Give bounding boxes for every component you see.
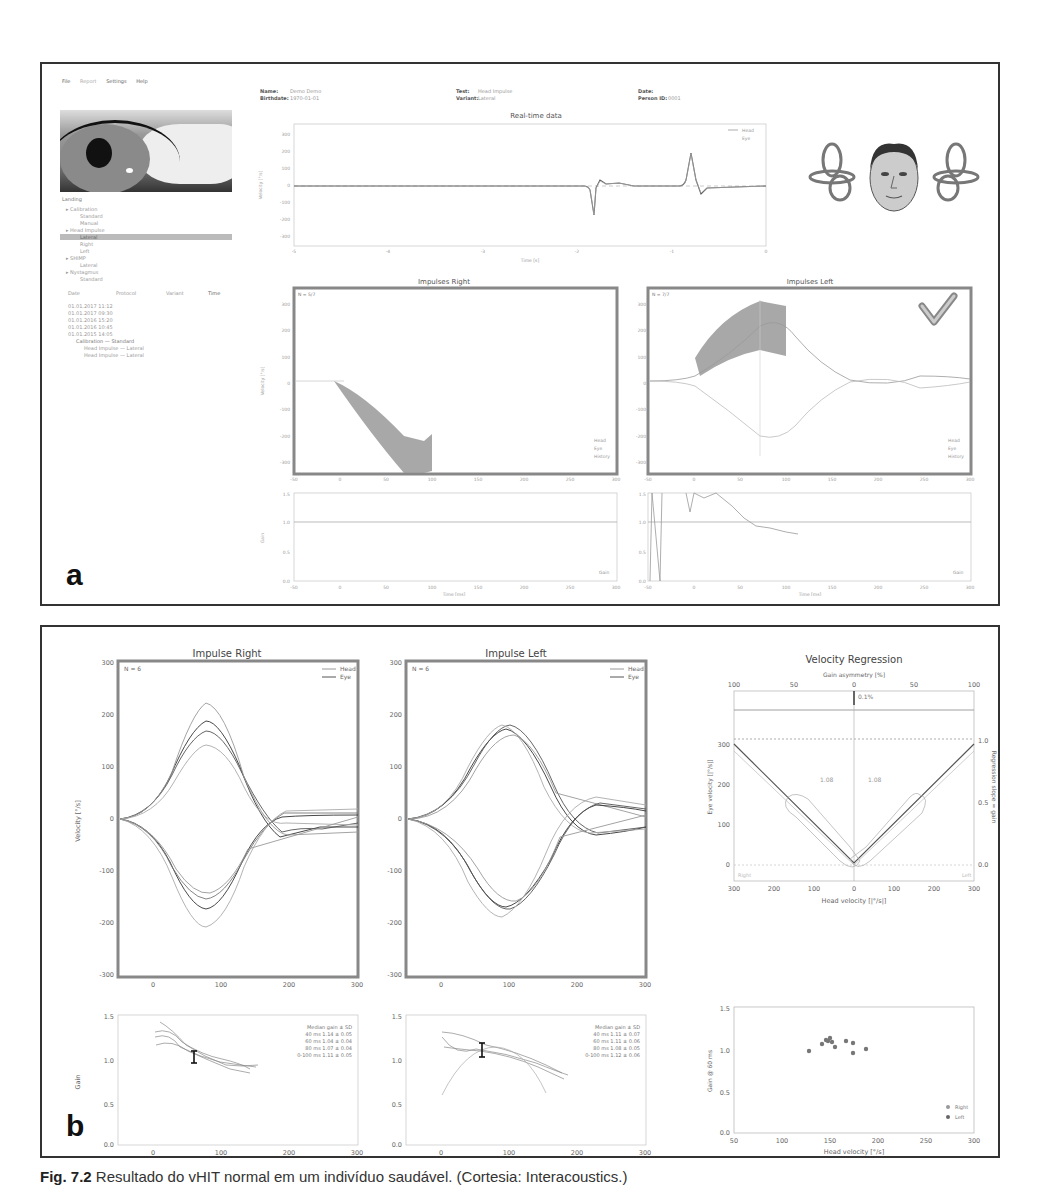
session-row[interactable]: Calibration — Standard: [76, 338, 134, 344]
tree-item[interactable]: Standard: [80, 213, 103, 219]
session-row[interactable]: 01.01.2016 10:45: [68, 324, 113, 330]
svg-text:150: 150: [828, 585, 837, 590]
svg-text:50: 50: [737, 477, 743, 482]
head-canals-3d-model: [804, 120, 984, 240]
svg-text:300: 300: [390, 659, 402, 667]
svg-text:100: 100: [428, 477, 437, 482]
median-gain-table: Median gain ± SD 40 ms 1.14 ± 0.05 60 ms…: [297, 1024, 352, 1058]
tree-item[interactable]: ▸ Nystagmus: [66, 269, 98, 275]
svg-text:-300: -300: [99, 971, 114, 979]
tree-item[interactable]: Lateral: [80, 262, 97, 268]
svg-text:Median gain ± SD: Median gain ± SD: [595, 1024, 640, 1031]
svg-text:Gain: Gain: [260, 533, 265, 543]
birthdate-label: Birthdate:: [260, 95, 289, 101]
tree-item[interactable]: Right: [80, 241, 93, 247]
impulse-right-chart: Impulse Right N = 6 HeadEye 3002001000 -…: [60, 637, 380, 1157]
svg-text:0: 0: [339, 477, 342, 482]
realtime-chart: Real-time data 300200100 0-100-200-300 -…: [254, 110, 799, 270]
svg-text:80 ms 1.08 ± 0.05: 80 ms 1.08 ± 0.05: [593, 1045, 640, 1051]
svg-text:0: 0: [643, 381, 646, 386]
session-row[interactable]: Head Impulse — Lateral: [84, 352, 144, 358]
svg-text:250: 250: [920, 1137, 932, 1145]
svg-text:Eye: Eye: [628, 673, 639, 681]
svg-text:300: 300: [639, 981, 651, 989]
svg-text:Head velocity [|°/s|]: Head velocity [|°/s|]: [822, 897, 887, 905]
svg-text:200: 200: [281, 328, 290, 333]
svg-text:0-100 ms 1.12 ± 0.06: 0-100 ms 1.12 ± 0.06: [585, 1052, 640, 1058]
session-row[interactable]: 01.01.2015 14:05: [68, 331, 113, 337]
svg-text:100: 100: [718, 821, 730, 829]
svg-text:Time [s]: Time [s]: [520, 258, 540, 263]
left-canals-icon: [810, 144, 854, 200]
tree-item[interactable]: ▸ Head Impulse: [66, 227, 105, 233]
svg-text:0.0: 0.0: [978, 861, 988, 869]
impulse-count: N = 7/7: [652, 292, 669, 297]
svg-text:100: 100: [503, 981, 515, 989]
svg-text:300: 300: [637, 302, 646, 307]
n-count: N = 6: [124, 665, 141, 672]
svg-text:1.0: 1.0: [639, 520, 646, 525]
svg-text:0.5: 0.5: [978, 799, 988, 807]
svg-text:Median gain ± SD: Median gain ± SD: [307, 1024, 352, 1031]
svg-text:Head velocity [°/s]: Head velocity [°/s]: [824, 1148, 884, 1156]
session-row[interactable]: 01.01.2017 11:12: [68, 303, 113, 309]
tree-item-selected[interactable]: Lateral: [60, 234, 232, 240]
session-row[interactable]: 01.01.2016 15:20: [68, 317, 113, 323]
session-col-variant[interactable]: Variant: [166, 290, 184, 296]
svg-text:0: 0: [726, 861, 730, 869]
svg-text:-100: -100: [387, 867, 402, 875]
svg-text:-5: -5: [292, 249, 297, 254]
svg-text:200: 200: [768, 885, 780, 893]
svg-text:100: 100: [637, 355, 646, 360]
protocol-tree[interactable]: ▸ Calibration Standard Manual ▸ Head Imp…: [60, 206, 232, 406]
impulses-right-title: Impulses Right: [418, 278, 470, 286]
menu-item-report[interactable]: Report: [80, 78, 97, 84]
svg-text:0: 0: [852, 885, 856, 893]
impulse-count: N = 5/7: [298, 292, 315, 297]
session-row[interactable]: Head Impulse — Lateral: [84, 345, 144, 351]
session-col-date[interactable]: Date: [68, 290, 80, 296]
svg-text:100: 100: [215, 981, 227, 989]
tree-item[interactable]: ▸ SHIMP: [66, 255, 86, 261]
svg-text:-100: -100: [280, 200, 290, 205]
svg-text:1.5: 1.5: [720, 1005, 730, 1013]
svg-text:Velocity [°/s]: Velocity [°/s]: [260, 366, 265, 395]
menu-item-file[interactable]: File: [62, 78, 70, 84]
svg-text:Head: Head: [340, 665, 356, 672]
svg-text:200: 200: [281, 149, 290, 154]
tree-item[interactable]: Left: [80, 248, 89, 254]
person-id-value: 0001: [668, 95, 681, 101]
svg-text:0.0: 0.0: [283, 579, 290, 584]
tree-item[interactable]: ▸ Calibration: [66, 206, 97, 212]
svg-text:Gain asymmetry [%]: Gain asymmetry [%]: [823, 671, 885, 679]
svg-text:80 ms 1.07 ± 0.04: 80 ms 1.07 ± 0.04: [305, 1045, 352, 1051]
head-face-icon: [870, 144, 918, 211]
session-col-time[interactable]: Time: [208, 290, 220, 296]
menu-item-settings[interactable]: Settings: [106, 78, 127, 84]
svg-text:Left: Left: [955, 1114, 964, 1120]
tree-item[interactable]: Manual: [80, 220, 98, 226]
svg-text:300: 300: [966, 585, 975, 590]
svg-text:1.5: 1.5: [104, 1013, 114, 1021]
session-row[interactable]: 01.01.2017 09:30: [68, 310, 113, 316]
panel-b-frame: Impulse Right N = 6 HeadEye 3002001000 -…: [40, 625, 1000, 1158]
svg-text:0.5: 0.5: [392, 1101, 402, 1109]
name-label: Name:: [260, 88, 278, 94]
menu-item-help[interactable]: Help: [136, 78, 147, 84]
caption-text: Resultado do vHIT normal em um indivíduo…: [96, 1168, 628, 1185]
svg-text:Gain: Gain: [74, 1075, 82, 1090]
svg-text:100: 100: [776, 1137, 788, 1145]
svg-text:-1: -1: [670, 249, 675, 254]
median-gain-table: Median gain ± SD 40 ms 1.11 ± 0.07 60 ms…: [585, 1024, 640, 1058]
variant-label: Variant:: [456, 95, 478, 101]
svg-text:-300: -300: [280, 460, 290, 465]
svg-text:-100: -100: [99, 867, 114, 875]
svg-text:100: 100: [782, 477, 791, 482]
gain-scatter-chart: 1.51.00.50.0 50100150200 250300 Head vel…: [690, 987, 1000, 1157]
svg-text:0.0: 0.0: [639, 579, 646, 584]
svg-text:200: 200: [390, 711, 402, 719]
session-col-protocol[interactable]: Protocol: [116, 290, 136, 296]
tree-item[interactable]: Standard: [80, 276, 103, 282]
svg-text:-300: -300: [280, 234, 290, 239]
corner-label-right: Right: [738, 872, 751, 879]
